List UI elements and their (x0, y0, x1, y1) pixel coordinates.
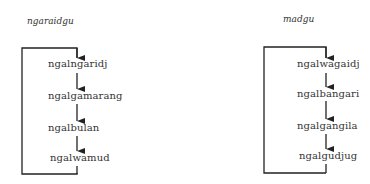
return-bracket-right (264, 47, 326, 173)
cycle-arrows (0, 0, 370, 184)
return-bracket-left (22, 48, 77, 174)
